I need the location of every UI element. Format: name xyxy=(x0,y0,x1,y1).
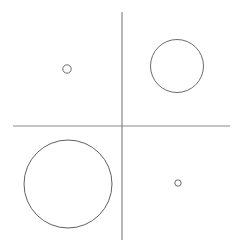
coordinate-plane-figure xyxy=(0,0,243,250)
figure-canvas xyxy=(0,0,243,250)
